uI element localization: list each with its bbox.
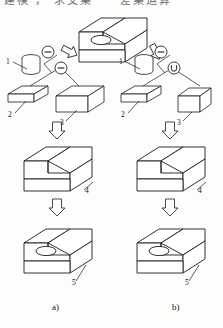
label-primitive-2-a: 2 xyxy=(8,110,12,119)
label-primitive-3-b: 3 xyxy=(177,118,181,127)
difference-operator-top-a xyxy=(42,46,54,58)
label-primitive-1-b: 1 xyxy=(119,57,123,66)
arrow-diagonal-down-left xyxy=(60,42,77,59)
intermediate-solid-a xyxy=(24,147,92,191)
label-intermediate-4-b: 4 xyxy=(198,186,202,195)
difference-operator-lower-a xyxy=(55,62,67,74)
label-intermediate-4-a: 4 xyxy=(85,186,89,195)
intermediate-solid-b xyxy=(137,147,205,191)
caption-b: b) xyxy=(172,302,180,312)
primitive-cube-b xyxy=(178,88,211,112)
label-final-5-a: 5 xyxy=(72,278,76,287)
final-solid-b xyxy=(137,229,205,273)
caption-a: a) xyxy=(52,302,59,312)
arrow-down-b-1 xyxy=(162,122,178,139)
final-solid-a xyxy=(24,229,92,273)
shared-result-solid-top xyxy=(79,18,147,62)
primitive-cylinder-a xyxy=(22,55,40,75)
difference-operator-top-b xyxy=(155,46,167,58)
primitive-large-box-a xyxy=(56,86,104,112)
primitive-flat-box-a xyxy=(8,86,48,102)
label-primitive-1-a: 1 xyxy=(6,57,10,66)
primitive-flat-box-b xyxy=(121,86,161,102)
arrow-down-a-2 xyxy=(49,199,65,216)
label-primitive-3-a: 3 xyxy=(60,118,64,127)
union-operator-lower-b xyxy=(168,62,180,74)
panel-a xyxy=(8,46,104,281)
arrow-down-b-2 xyxy=(162,199,178,216)
label-primitive-2-b: 2 xyxy=(121,110,125,119)
label-final-5-b: 5 xyxy=(185,278,189,287)
primitive-cylinder-b xyxy=(135,55,153,75)
panel-b xyxy=(121,46,211,281)
csg-tree-figure xyxy=(0,0,223,328)
